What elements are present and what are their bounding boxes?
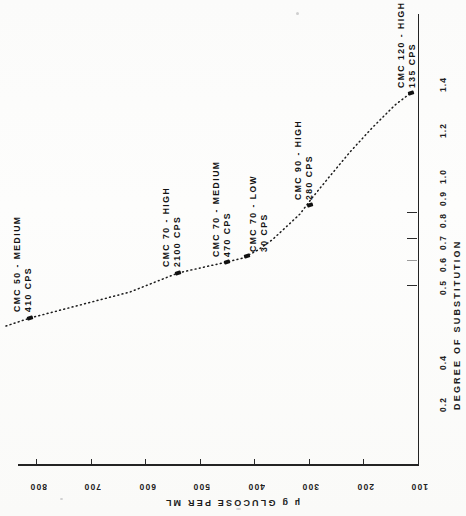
figure-canvas: 800 700 600 500 400 300 200 100 µ g GLUC… — [0, 0, 466, 516]
annotation-line-1: CMC 70 - HIGH — [161, 187, 171, 267]
annotation-cmc-50-medium: CMC 50 - MEDIUM 410 CPS — [12, 215, 33, 312]
cmc-dotted-trend-curve — [6, 92, 412, 326]
annotation-line-2: 30 CPS — [259, 175, 269, 252]
annotation-line-1: CMC 120 - HIGH — [396, 2, 406, 88]
annotation-line-1: CMC 70 - LOW — [248, 175, 258, 252]
annotation-line-1: CMC 70 - MEDIUM — [211, 160, 221, 257]
annotation-line-2: 135 CPS — [407, 2, 417, 88]
annotation-line-2: 2100 CPS — [172, 187, 182, 267]
annotation-line-2: 410 CPS — [23, 215, 33, 312]
annotation-cmc-70-high: CMC 70 - HIGH 2100 CPS — [161, 187, 182, 267]
annotation-cmc-90-high: CMC 90 - HIGH 280 CPS — [293, 120, 314, 200]
annotation-cmc-120-high: CMC 120 - HIGH 135 CPS — [396, 2, 417, 88]
annotation-line-1: CMC 50 - MEDIUM — [12, 215, 22, 312]
annotation-cmc-70-medium: CMC 70 - MEDIUM 470 CPS — [211, 160, 232, 257]
annotation-cmc-70-low: CMC 70 - LOW 30 CPS — [248, 175, 269, 252]
annotation-line-1: CMC 90 - HIGH — [293, 120, 303, 200]
annotation-line-2: 280 CPS — [304, 120, 314, 200]
annotation-line-2: 470 CPS — [222, 160, 232, 257]
